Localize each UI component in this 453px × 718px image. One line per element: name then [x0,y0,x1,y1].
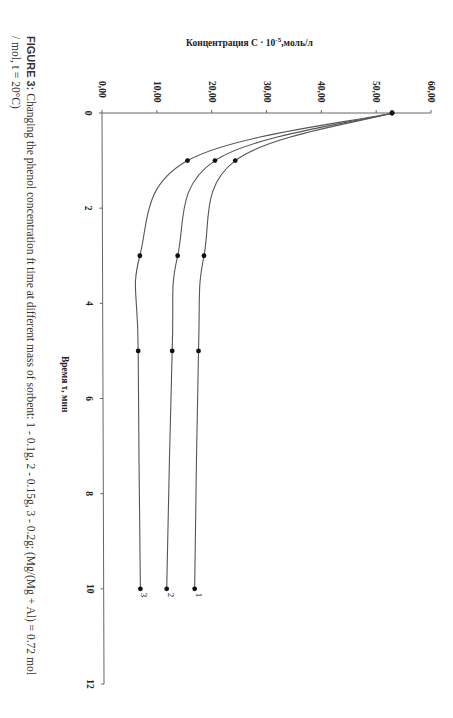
x-tick-label: 4 [84,301,94,306]
caption-line-2: / mol, t = 20°C) [9,36,22,109]
series-2-label: 2 [166,593,176,598]
chart: FIGURE 3: Changing the phenol concentrat… [0,0,453,718]
x-tick-label: 2 [83,206,93,211]
series-1-line [195,113,392,589]
series-2-marker [175,253,180,258]
y-axis-title-unit: ,моль/л [281,38,313,48]
y-tick-label: 20,00 [207,81,217,103]
y-tick-label: 0,00 [97,81,107,98]
series-3-marker [185,158,190,163]
figure-caption: FIGURE 3: Changing the phenol concentrat… [9,36,37,675]
y-axis-title-main: Концентрация C · 10 [186,38,276,48]
x-tick-label: 12 [85,679,95,689]
x-tick-label: 0 [83,111,93,116]
series-2-marker [213,158,218,163]
y-tick-label: 30,00 [262,81,272,103]
series-2-marker [164,586,169,591]
series-2-marker [170,349,175,354]
series-3-marker [138,586,143,591]
caption-label: FIGURE 3: [25,36,37,90]
y-tick-label: 60,00 [426,81,436,103]
y-tick-label: 50,00 [371,81,381,103]
series-3-marker [137,253,142,258]
x-tick-label: 10 [85,584,95,594]
y-axis-title: Концентрация C · 10-5,моль/л [186,36,314,48]
caption-line-1: FIGURE 3: Changing the phenol concentrat… [24,36,37,675]
y-tick-label: 40,00 [316,81,326,103]
plot-area: 0,0010,0020,0030,0040,0050,0060,00024681… [83,81,436,689]
series-1-marker [202,253,207,258]
series-3-label: 3 [139,593,149,598]
series-1-marker [233,158,238,163]
series-1-marker [196,349,201,354]
x-tick-label: 6 [84,396,94,401]
y-tick-label: 10,00 [152,81,162,103]
series-1-label: 1 [194,593,204,598]
series-1-marker [192,586,197,591]
x-axis-title: Время τ, мин [60,356,70,413]
x-tick-label: 8 [84,491,94,496]
series-3-marker [136,349,141,354]
caption-text: Changing the phenol concentration ft tim… [24,90,37,674]
series-3-marker [390,111,395,116]
